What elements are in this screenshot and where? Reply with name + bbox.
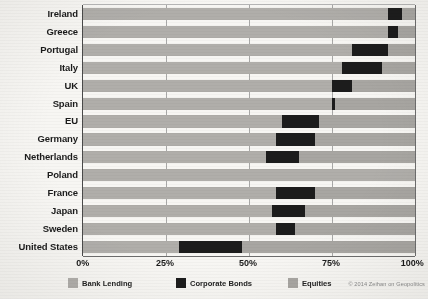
bar-row [83,44,415,56]
category-label: UK [0,80,78,92]
legend-label: Bank Lending [82,279,132,288]
bar-segment-corporate-bonds [388,8,401,20]
bar-row [83,187,415,199]
legend-swatch-icon [176,278,186,288]
category-label: Spain [0,98,78,110]
x-tick-label: 50% [239,258,257,268]
category-label: France [0,187,78,199]
bar-row [83,98,415,110]
bar-segment-corporate-bonds [276,133,316,145]
x-tick-label: 100% [401,258,424,268]
category-label: Germany [0,133,78,145]
plot-area [82,5,416,256]
bar-row [83,115,415,127]
bar-segment-equities [295,223,415,235]
bar-segment-bank-lending [83,8,415,20]
bar-segment-corporate-bonds [179,241,242,253]
category-axis: IrelandGreecePortugalItalyUKSpainEUGerma… [0,5,78,256]
bar-row [83,169,415,181]
legend-label: Corporate Bonds [190,279,252,288]
legend-label: Equities [302,279,332,288]
bar-segment-equities [299,151,415,163]
bar-segment-corporate-bonds [342,62,382,74]
bar-segment-corporate-bonds [332,98,335,110]
category-label: Japan [0,205,78,217]
x-tick-label: 75% [322,258,340,268]
x-tick-label: 0% [76,258,89,268]
legend-item[interactable]: Corporate Bonds [176,278,252,288]
category-label: EU [0,115,78,127]
gridline-25% [166,5,167,256]
bar-segment-equities [315,187,415,199]
bar-segment-equities [388,44,415,56]
gridline-75% [332,5,333,256]
bar-segment-corporate-bonds [276,223,296,235]
bar-segment-corporate-bonds [332,80,352,92]
gridline-50% [249,5,250,256]
category-label: Netherlands [0,151,78,163]
category-label: Ireland [0,8,78,20]
category-label: Portugal [0,44,78,56]
legend-item[interactable]: Equities [288,278,332,288]
category-label: Greece [0,26,78,38]
bar-row [83,241,415,253]
bar-segment-equities [402,8,415,20]
bar-row [83,62,415,74]
bar-segment-equities [382,62,415,74]
bar-row [83,8,415,20]
bar-row [83,205,415,217]
bar-segment-equities [315,133,415,145]
bar-segment-bank-lending [83,26,415,38]
bar-segment-bank-lending [83,169,415,181]
bar-segment-corporate-bonds [276,187,316,199]
bar-row [83,133,415,145]
legend-item[interactable]: Bank Lending [68,278,132,288]
x-axis-tick-labels: 0%25%50%75%100% [82,258,414,272]
bar-segment-corporate-bonds [282,115,319,127]
bar-segment-equities [242,241,415,253]
category-label: United States [0,241,78,253]
bar-row [83,26,415,38]
bar-segment-corporate-bonds [352,44,389,56]
copyright-credit: © 2014 Zeihan on Geopolitics [348,281,425,287]
bar-segment-equities [398,26,415,38]
bar-row [83,151,415,163]
bar-row [83,80,415,92]
legend-swatch-icon [68,278,78,288]
stacked-bar-chart: IrelandGreecePortugalItalyUKSpainEUGerma… [0,0,428,299]
bar-segment-corporate-bonds [272,205,305,217]
bar-segment-equities [305,205,415,217]
bar-segment-corporate-bonds [266,151,299,163]
legend-swatch-icon [288,278,298,288]
bar-segment-equities [352,80,415,92]
category-label: Sweden [0,223,78,235]
bar-segment-equities [319,115,415,127]
bar-segment-equities [335,98,415,110]
bar-segment-corporate-bonds [388,26,398,38]
category-label: Poland [0,169,78,181]
chart-legend: © 2014 Zeihan on Geopolitics Bank Lendin… [0,277,428,295]
x-tick-label: 25% [156,258,174,268]
bar-row [83,223,415,235]
category-label: Italy [0,62,78,74]
